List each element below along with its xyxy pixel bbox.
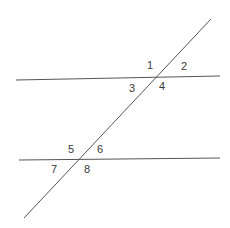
parallel-line-bottom xyxy=(19,158,220,160)
angle-label-5: 5 xyxy=(68,143,74,155)
angle-label-4: 4 xyxy=(159,80,165,92)
angle-label-8: 8 xyxy=(84,163,90,175)
transversal-line xyxy=(24,19,211,218)
parallel-lines-transversal-diagram: 1 2 3 4 5 6 7 8 xyxy=(0,0,230,228)
angle-label-2: 2 xyxy=(181,60,187,72)
angle-label-6: 6 xyxy=(97,143,103,155)
angle-label-3: 3 xyxy=(129,82,135,94)
angle-label-7: 7 xyxy=(51,163,57,175)
parallel-line-top xyxy=(16,76,220,80)
angle-label-1: 1 xyxy=(147,59,153,71)
